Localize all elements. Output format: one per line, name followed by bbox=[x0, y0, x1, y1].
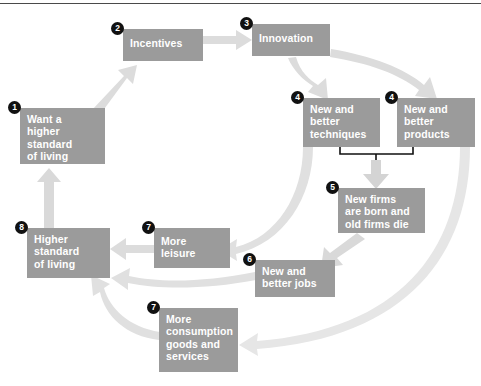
node-new-better-techniques[interactable]: New and better techniques bbox=[303, 98, 380, 147]
node-higher-standard-of-living[interactable]: Higher standard of living bbox=[27, 228, 110, 278]
arrow-bracket-to-new-firms bbox=[363, 160, 389, 189]
arrow-innovation-to-products bbox=[330, 49, 437, 99]
node-new-better-jobs[interactable]: New and better jobs bbox=[255, 260, 335, 297]
badge-5: 5 bbox=[326, 181, 339, 194]
node-more-consumption-goods-services[interactable]: More consumption goods and services bbox=[159, 308, 238, 372]
node-label-more-leisure: More leisure bbox=[161, 235, 224, 260]
node-incentives[interactable]: Incentives bbox=[123, 29, 203, 61]
badge-6: 6 bbox=[243, 253, 256, 266]
badge-7-consumption: 7 bbox=[147, 301, 160, 314]
badge-3: 3 bbox=[240, 17, 253, 30]
node-label-more-consumption-goods-services: More consumption goods and services bbox=[166, 313, 232, 363]
node-label-want-higher-standard: Want a higher standard of living bbox=[27, 113, 99, 163]
badge-7-leisure: 7 bbox=[142, 221, 155, 234]
node-label-new-firms-born-old-die: New firms are born and old firms die bbox=[345, 193, 419, 230]
node-innovation[interactable]: Innovation bbox=[252, 24, 330, 56]
bracket-techniques-products bbox=[340, 147, 413, 160]
node-label-innovation: Innovation bbox=[259, 32, 324, 44]
node-more-leisure[interactable]: More leisure bbox=[154, 228, 230, 268]
badge-8: 8 bbox=[15, 221, 28, 234]
badge-4-products: 4 bbox=[385, 91, 398, 104]
arrow-more-leisure-to-higher-standard bbox=[110, 238, 154, 260]
arrow-incentives-to-innovation bbox=[203, 30, 252, 50]
node-label-new-better-products: New and better products bbox=[404, 103, 469, 140]
arrow-jobs-to-higher-standard bbox=[111, 268, 256, 290]
badge-1: 1 bbox=[8, 101, 21, 114]
arrow-techniques-to-more-leisure bbox=[219, 147, 313, 261]
arrow-products-to-more-consumption bbox=[239, 147, 470, 356]
node-new-better-products[interactable]: New and better products bbox=[397, 98, 475, 147]
arrow-higher-standard-to-want bbox=[37, 168, 61, 228]
badge-4-techniques: 4 bbox=[291, 91, 304, 104]
diagram-canvas: Want a higher standard of living 1 Incen… bbox=[0, 0, 481, 386]
node-new-firms-born-old-die[interactable]: New firms are born and old firms die bbox=[338, 188, 425, 233]
node-want-higher-standard[interactable]: Want a higher standard of living bbox=[20, 108, 105, 164]
badge-2: 2 bbox=[111, 22, 124, 35]
node-label-new-better-techniques: New and better techniques bbox=[310, 103, 374, 140]
node-label-higher-standard-of-living: Higher standard of living bbox=[34, 233, 104, 270]
node-label-incentives: Incentives bbox=[130, 37, 197, 49]
node-label-new-better-jobs: New and better jobs bbox=[262, 265, 329, 290]
